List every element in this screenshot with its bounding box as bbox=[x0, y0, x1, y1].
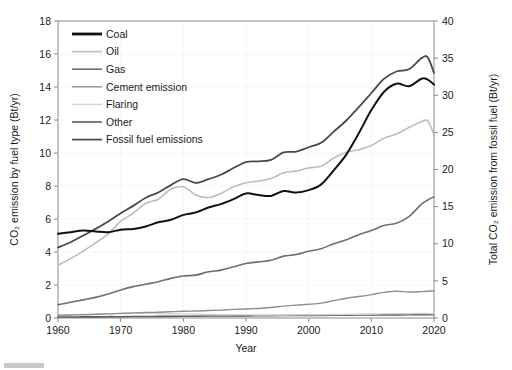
ytick-label-left: 4 bbox=[45, 246, 51, 258]
xtick-label: 1990 bbox=[234, 324, 258, 336]
ytick-label-right: 5 bbox=[442, 275, 448, 287]
legend-label-oil: Oil bbox=[106, 45, 119, 57]
ytick-label-left: 6 bbox=[45, 213, 51, 225]
ytick-label-right: 40 bbox=[442, 15, 454, 27]
ytick-label-right: 35 bbox=[442, 52, 454, 64]
ytick-label-right: 30 bbox=[442, 89, 454, 101]
ytick-label-left: 2 bbox=[45, 279, 51, 291]
ytick-label-left: 0 bbox=[45, 312, 51, 324]
xtick-label: 1960 bbox=[46, 324, 70, 336]
ytick-label-left: 16 bbox=[39, 48, 51, 60]
y-axis-title: CO₂ emission by fuel type (Bt/yr) bbox=[8, 93, 20, 245]
x-axis-title: Year bbox=[235, 342, 257, 354]
ytick-label-right: 25 bbox=[442, 126, 454, 138]
legend-label-coal: Coal bbox=[106, 28, 128, 40]
xtick-label: 2010 bbox=[360, 324, 384, 336]
xtick-label: 1980 bbox=[172, 324, 196, 336]
ytick-label-left: 8 bbox=[45, 180, 51, 192]
ytick-label-right: 0 bbox=[442, 312, 448, 324]
xtick-label: 2000 bbox=[297, 324, 321, 336]
xtick-label: 2020 bbox=[422, 324, 446, 336]
chart-figure: 0246810121416180510152025303540196019701… bbox=[0, 0, 512, 370]
ytick-label-left: 12 bbox=[39, 114, 51, 126]
y2-axis-title: Total CO₂ emission from fossil fuel (Bt/… bbox=[487, 74, 499, 265]
ytick-label-right: 20 bbox=[442, 163, 454, 175]
legend-label-fossil-fuel-emissions: Fossil fuel emissions bbox=[106, 133, 203, 145]
ytick-label-right: 15 bbox=[442, 200, 454, 212]
footer-band bbox=[0, 356, 512, 370]
ytick-label-right: 10 bbox=[442, 237, 454, 249]
footer-marker bbox=[4, 363, 44, 368]
xtick-label: 1970 bbox=[109, 324, 133, 336]
ytick-label-left: 10 bbox=[39, 147, 51, 159]
ytick-label-left: 14 bbox=[39, 81, 51, 93]
chart-svg: 0246810121416180510152025303540196019701… bbox=[0, 0, 512, 370]
legend-label-flaring: Flaring bbox=[106, 98, 138, 110]
legend-label-cement-emission: Cement emission bbox=[106, 81, 187, 93]
legend-label-gas: Gas bbox=[106, 63, 125, 75]
legend-label-other: Other bbox=[106, 116, 133, 128]
ytick-label-left: 18 bbox=[39, 15, 51, 27]
